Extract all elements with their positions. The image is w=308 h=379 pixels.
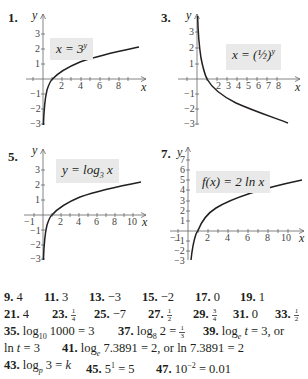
y-axis-label: y: [32, 143, 37, 158]
answer-23: 23. 14: [52, 306, 76, 323]
answer-row-3: 35. log10 1000 = 3 37. log8 2 = 13 39. l…: [4, 323, 308, 340]
graph-7: 7. y x −12 46 810 76 54 32 1−1 −2−3 f(x)…: [154, 125, 308, 260]
graph-3: 3. y x 23 45 67 8 32 1−1 −2−3 x = (½)y: [154, 0, 308, 125]
answer-row-5: 43. logp 3 = k 45. 51 = 5 47. 10−2 = 0.0…: [4, 357, 308, 374]
answer-13: 13. −3: [89, 289, 121, 306]
answer-39-continued: ln t = 3: [4, 340, 40, 357]
answer-list: 9. 4 11. 3 13. −3 15. −2 17. 0 19. 1 21.…: [4, 289, 308, 374]
answer-row-1: 9. 4 11. 3 13. −3 15. −2 17. 0 19. 1: [4, 289, 308, 306]
answer-31: 31. 0: [233, 306, 258, 323]
answer-43: 43. logp 3 = k: [4, 357, 71, 379]
equation-label: x = 3y: [50, 38, 93, 60]
answer-15: 15. −2: [142, 289, 174, 306]
answer-29: 29. 34: [193, 306, 217, 323]
answer-17: 17. 0: [195, 289, 220, 306]
graph-5: 5. y x −12 46 810 32 1−1 −2−3 y = log3 x: [0, 125, 154, 260]
equation-label: y = log3 x: [56, 159, 119, 183]
graph-1: 1. y x 24 68 32 1−1 −2−3 x = 3y: [0, 0, 154, 125]
equation-label: f(x) = 2 ln x: [196, 171, 270, 193]
y-axis-label: y: [32, 8, 37, 23]
x-axis-label: x: [299, 231, 304, 246]
answer-21: 21. 4: [4, 306, 29, 323]
x-axis-label: x: [141, 80, 146, 95]
answer-row-2: 21. 4 23. 14 25. −7 27. 12 29. 34 31. 0 …: [4, 306, 308, 323]
x-axis-label: x: [142, 215, 147, 230]
answer-27: 27. 12: [148, 306, 172, 323]
answer-45: 45. 51 = 5: [86, 357, 135, 378]
x-axis-label: x: [295, 80, 300, 95]
answer-9: 9. 4: [4, 289, 23, 306]
y-axis-label: y: [186, 8, 191, 23]
graph-5-plot: [0, 125, 154, 260]
answer-33: 33. 12: [275, 306, 299, 323]
graph-1-plot: [0, 0, 154, 125]
answer-19: 19. 1: [240, 289, 265, 306]
answer-47: 47. 10−2 = 0.01: [156, 357, 231, 378]
answer-11: 11. 3: [44, 289, 68, 306]
answer-25: 25. −7: [94, 306, 126, 323]
answer-row-4: ln t = 3 41. loge 7.3891 = 2, or ln 7.38…: [4, 340, 308, 357]
equation-label: x = (½)y: [226, 44, 281, 70]
